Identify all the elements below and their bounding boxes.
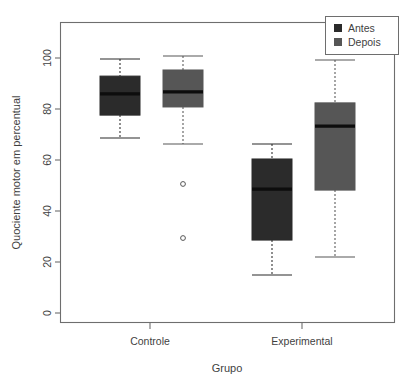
x-category-label-controle: Controle — [130, 335, 170, 347]
x-category-label-experimental: Experimental — [271, 335, 332, 347]
outlier-point — [181, 236, 186, 241]
legend-swatch-depois — [334, 38, 342, 46]
box-iqr — [100, 76, 140, 115]
y-tick-label: 80 — [41, 103, 53, 115]
x-axis-title: Grupo — [212, 362, 243, 374]
y-tick-label: 0 — [41, 310, 53, 316]
boxplot-experimental-antes — [252, 144, 292, 275]
box-iqr — [315, 103, 355, 190]
y-axis: 020406080100 — [41, 49, 61, 316]
y-tick-label: 40 — [41, 205, 53, 217]
y-tick-label: 100 — [41, 49, 53, 67]
legend-label-depois: Depois — [348, 36, 381, 48]
boxplot-experimental-depois — [315, 60, 355, 257]
legend-swatch-antes — [334, 24, 342, 32]
outlier-point — [181, 182, 186, 187]
boxplot-controle-depois — [163, 56, 203, 240]
legend: Antes Depois — [326, 17, 399, 55]
legend-label-antes: Antes — [348, 22, 375, 34]
box-iqr — [252, 159, 292, 240]
y-tick-label: 20 — [41, 256, 53, 268]
x-axis: ControleExperimental — [130, 323, 332, 348]
box-series-group — [100, 56, 355, 275]
plot-svg: 020406080100 Quociente motor em percentu… — [0, 0, 408, 385]
box-iqr — [163, 70, 203, 107]
y-tick-label: 60 — [41, 154, 53, 166]
y-axis-title: Quociente motor em percentual — [10, 95, 22, 249]
boxplot-controle-antes — [100, 59, 140, 138]
boxplot-chart: 020406080100 Quociente motor em percentu… — [0, 0, 408, 385]
